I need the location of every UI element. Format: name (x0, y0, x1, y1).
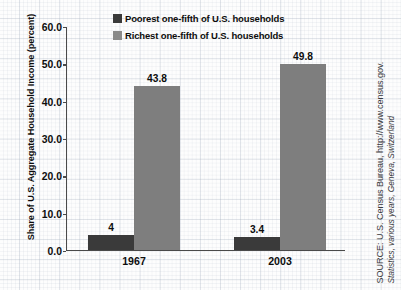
y-tick-label: 50.0 (2, 59, 62, 70)
y-tick-mark (63, 64, 66, 65)
legend-entry-poorest: Poorest one-fifth of U.S. households (113, 11, 284, 26)
y-tick-label: 10.0 (2, 208, 62, 219)
x-category-label-1967: 1967 (88, 255, 180, 267)
y-tick-label: 40.0 (2, 96, 62, 107)
x-category-label-2003: 2003 (234, 255, 326, 267)
legend-swatch-icon-richest (113, 31, 122, 40)
bar-poorest-2003 (234, 237, 280, 250)
bar-value-label: 3.4 (234, 224, 280, 235)
y-axis-line (66, 27, 67, 251)
source-note-line-1: SOURCE: U.S. Census Bureau, http://www.c… (375, 0, 385, 284)
source-note-line-2: Statistics, various years, Geneva, Switz… (386, 0, 396, 284)
source-note: SOURCE: U.S. Census Bureau, http://www.c… (375, 0, 396, 284)
bar-value-label: 4 (88, 222, 134, 233)
y-tick-mark (63, 176, 66, 177)
y-tick-mark (63, 139, 66, 140)
legend-label-poorest: Poorest one-fifth of U.S. households (125, 13, 284, 24)
x-axis-line (66, 250, 345, 251)
y-tick-mark (63, 102, 66, 103)
bar-value-label: 49.8 (280, 51, 326, 62)
y-tick-label: 20.0 (2, 171, 62, 182)
y-tick-mark (63, 251, 66, 252)
legend-label-richest: Richest one-fifth of U.S. households (125, 30, 283, 41)
plot-area: 443.83.449.8 19672003 (66, 27, 345, 251)
y-tick-mark (63, 214, 66, 215)
bar-poorest-1967 (88, 235, 134, 250)
bar-richest-2003 (280, 64, 326, 250)
legend-entry-richest: Richest one-fifth of U.S. households (113, 28, 284, 43)
bar-value-label: 43.8 (134, 73, 180, 84)
y-tick-label: 30.0 (2, 134, 62, 145)
y-tick-label: 60.0 (2, 22, 62, 33)
y-tick-label: 0.0 (2, 246, 62, 257)
bar-richest-1967 (134, 86, 180, 250)
y-tick-mark (63, 27, 66, 28)
legend-swatch-icon-poorest (113, 14, 122, 23)
chart-legend: Poorest one-fifth of U.S. households Ric… (113, 11, 284, 45)
chart-canvas: Share of U.S. Aggregate Household Income… (0, 0, 401, 290)
